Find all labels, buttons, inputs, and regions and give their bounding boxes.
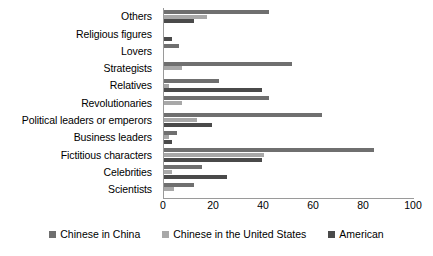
bar (164, 131, 177, 135)
legend-label: American (339, 228, 383, 240)
plot-area (163, 8, 414, 199)
bar (164, 187, 174, 191)
bar (164, 37, 172, 41)
axis-tick-label: 60 (307, 200, 319, 211)
bar (164, 15, 207, 19)
category-label: Business leaders (0, 129, 158, 146)
bar (164, 84, 169, 88)
bar-group (164, 25, 414, 42)
bar (164, 66, 182, 70)
bar (164, 148, 374, 152)
legend-item[interactable]: Chinese in China (49, 228, 140, 240)
bar (164, 113, 322, 117)
category-label: Celebrities (0, 163, 158, 180)
category-axis: OthersReligious figuresLoversStrategists… (0, 8, 158, 198)
bar (164, 10, 269, 14)
bar (164, 165, 202, 169)
bar (164, 62, 292, 66)
category-label: Relatives (0, 77, 158, 94)
bar (164, 170, 172, 174)
bar (164, 101, 182, 105)
legend-label: Chinese in China (60, 228, 140, 240)
category-label: Fictitious characters (0, 146, 158, 163)
bar-group (164, 60, 414, 77)
category-label: Others (0, 8, 158, 25)
bar (164, 153, 264, 157)
axis-tick-label: 0 (160, 200, 166, 211)
bar-group (164, 163, 414, 180)
square-swatch-icon (49, 231, 56, 238)
bar (164, 123, 212, 127)
legend-item[interactable]: American (328, 228, 383, 240)
bar-group (164, 8, 414, 25)
legend-label: Chinese in the United States (173, 228, 306, 240)
legend-item[interactable]: Chinese in the United States (162, 228, 306, 240)
category-label: Religious figures (0, 25, 158, 42)
bar-group (164, 181, 414, 198)
bar-group (164, 77, 414, 94)
bar (164, 175, 227, 179)
category-label: Revolutionaries (0, 94, 158, 111)
bar-group (164, 146, 414, 163)
bar (164, 183, 194, 187)
plot-wrapper: OthersReligious figuresLoversStrategists… (0, 0, 433, 200)
bar (164, 79, 219, 83)
axis-tick-label: 40 (257, 200, 269, 211)
bar (164, 96, 269, 100)
bar-group (164, 94, 414, 111)
bar-groups (164, 8, 414, 198)
bar (164, 118, 197, 122)
bar (164, 158, 262, 162)
bar (164, 44, 179, 48)
category-label: Political leaders or emperors (0, 112, 158, 129)
category-label: Scientists (0, 181, 158, 198)
bar (164, 88, 262, 92)
axis-tick-label: 20 (207, 200, 219, 211)
axis-tick-label: 80 (357, 200, 369, 211)
category-label: Strategists (0, 60, 158, 77)
value-axis: 020406080100 (163, 200, 413, 218)
bar (164, 140, 172, 144)
square-swatch-icon (328, 231, 335, 238)
bar-group (164, 112, 414, 129)
bar (164, 19, 194, 23)
bar-group (164, 43, 414, 60)
chart-legend: Chinese in ChinaChinese in the United St… (0, 228, 433, 240)
bar (164, 135, 169, 139)
category-label: Lovers (0, 43, 158, 60)
bar-group (164, 129, 414, 146)
axis-tick-label: 100 (404, 200, 422, 211)
square-swatch-icon (162, 231, 169, 238)
bar-chart: OthersReligious figuresLoversStrategists… (0, 0, 433, 256)
